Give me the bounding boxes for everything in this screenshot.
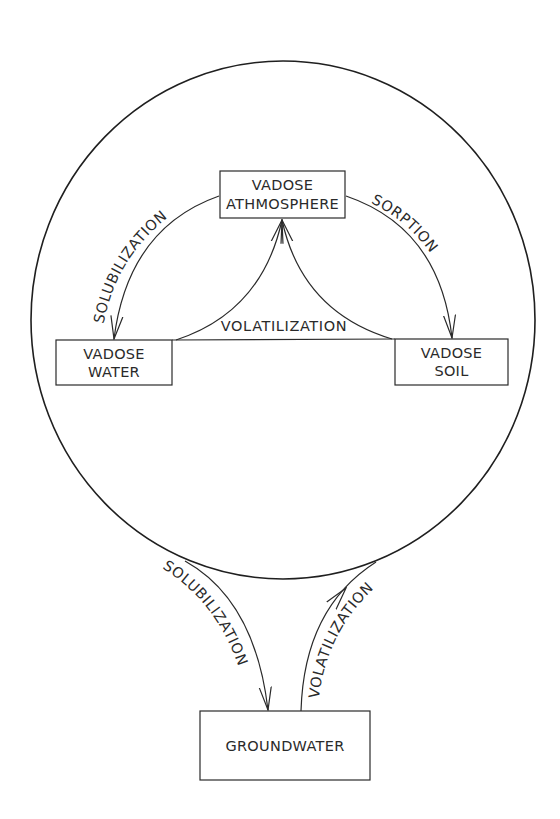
vadose-zone-diagram: SOLUBILIZATION SORPTION VOLATILIZATION V… [0, 0, 560, 819]
solubilization-label-top: SOLUBILIZATION [91, 207, 170, 324]
volatilization-label-top: VOLATILIZATION [221, 318, 347, 334]
node-groundwater: GROUNDWATER [200, 711, 370, 780]
vadose-water-line2: WATER [88, 364, 140, 380]
sorption-label: SORPTION [369, 191, 441, 255]
volatilization-baseline [172, 339, 395, 340]
vadose-atmosphere-line2: ATHMOSPHERE [226, 196, 339, 212]
vadose-water-line1: VADOSE [83, 346, 145, 362]
node-vadose-atmosphere: VADOSE ATHMOSPHERE [220, 171, 345, 218]
node-vadose-soil: VADOSE SOIL [395, 339, 508, 385]
groundwater-label: GROUNDWATER [225, 738, 344, 754]
vadose-soil-line2: SOIL [434, 363, 468, 379]
vadose-atmosphere-line1: VADOSE [252, 177, 314, 193]
volatilization-label-bottom: VOLATILIZATION [306, 579, 376, 699]
node-vadose-water: VADOSE WATER [56, 340, 172, 385]
vadose-soil-line1: VADOSE [421, 345, 483, 361]
